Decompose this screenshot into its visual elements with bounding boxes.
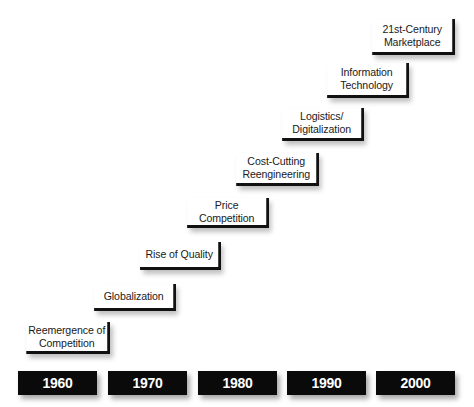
milestone-information-technology: Information Technology <box>327 63 409 98</box>
year-label: 2000 <box>401 375 431 391</box>
milestone-globalization: Globalization <box>94 284 176 311</box>
milestone-label: 21st-Century Marketplace <box>382 23 441 49</box>
milestone-label: Logistics/ Digitalization <box>292 110 351 136</box>
milestone-21st-century-marketplace: 21st-Century Marketplace <box>372 19 455 55</box>
milestone-cost-cutting-reengineering: Cost-Cutting Reengineering <box>236 153 319 186</box>
milestone-rise-of-quality: Rise of Quality <box>140 242 221 270</box>
timeline-diagram: Reemergence of Competition Globalization… <box>0 0 474 407</box>
milestone-price-competition: Price Competition <box>187 198 269 228</box>
milestone-label: Reemergence of Competition <box>28 324 105 350</box>
year-label: 1990 <box>312 375 342 391</box>
year-label: 1960 <box>43 375 73 391</box>
milestone-label: Cost-Cutting Reengineering <box>242 155 310 181</box>
year-box-1990: 1990 <box>287 371 366 395</box>
year-label: 1970 <box>133 375 163 391</box>
milestone-label: Price Competition <box>199 199 254 225</box>
milestone-logistics-digitalization: Logistics/ Digitalization <box>282 108 364 141</box>
year-box-1970: 1970 <box>108 371 187 395</box>
year-box-2000: 2000 <box>376 371 455 395</box>
milestone-reemergence-of-competition: Reemergence of Competition <box>26 322 110 354</box>
year-box-1960: 1960 <box>18 371 97 395</box>
year-box-1980: 1980 <box>198 371 277 395</box>
milestone-label: Information Technology <box>340 66 393 92</box>
milestone-label: Rise of Quality <box>145 248 212 261</box>
year-label: 1980 <box>223 375 253 391</box>
milestone-label: Globalization <box>104 290 164 303</box>
